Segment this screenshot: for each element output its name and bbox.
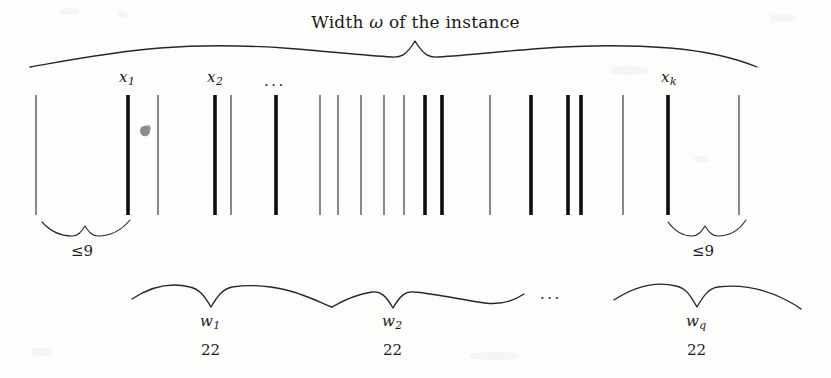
- xk-subscript: k: [670, 75, 677, 88]
- width-brace: [30, 41, 757, 67]
- xk-base: x: [661, 68, 669, 86]
- x2-subscript: 2: [216, 75, 223, 88]
- group-brace-wq: [614, 284, 801, 309]
- left-gap-brace: [42, 220, 130, 236]
- w2-subscript: 2: [395, 319, 402, 332]
- w1-subscript: 1: [213, 319, 220, 332]
- item-label-x2: x2: [207, 70, 223, 88]
- wq-base: w: [686, 312, 699, 330]
- item-label-xk: xk: [661, 70, 677, 88]
- group-label-w2: w2: [382, 314, 402, 332]
- right-gap-label: ≤9: [692, 244, 714, 259]
- group-label-wq: wq: [686, 314, 706, 332]
- w1-base: w: [200, 312, 213, 330]
- group-brace-w1: [132, 285, 332, 307]
- groups-ellipsis: ...: [540, 285, 562, 303]
- group-value-wq: 22: [687, 343, 706, 358]
- left-gap-label: ≤9: [71, 244, 93, 259]
- instance-width-figure: Width ω of the instance: [0, 0, 831, 378]
- group-brace-w2: [332, 292, 524, 308]
- group-value-w2: 22: [383, 343, 402, 358]
- ink-speck: [140, 125, 151, 136]
- group-value-w1: 22: [201, 343, 220, 358]
- x2-base: x: [207, 68, 215, 86]
- wq-subscript: q: [699, 319, 706, 332]
- figure-vector-layer: [0, 0, 831, 378]
- item-bars: [36, 95, 739, 215]
- x1-subscript: 1: [128, 75, 135, 88]
- items-ellipsis: ...: [264, 72, 286, 90]
- right-gap-brace: [668, 220, 746, 236]
- x1-base: x: [119, 68, 127, 86]
- w2-base: w: [382, 312, 395, 330]
- group-label-w1: w1: [200, 314, 220, 332]
- item-label-x1: x1: [119, 70, 135, 88]
